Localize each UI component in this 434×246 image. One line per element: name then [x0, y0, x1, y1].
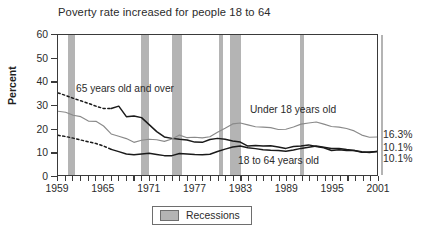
x-tick-mark — [225, 176, 226, 181]
x-tick-label: 1959 — [45, 183, 68, 194]
x-tick-mark — [57, 176, 58, 181]
x-tick-mark — [172, 176, 173, 181]
y-tick-label: 0 — [26, 171, 48, 182]
recession-swatch-icon — [160, 210, 179, 221]
y-axis-title: Percent — [6, 66, 18, 105]
x-tick-mark — [218, 176, 219, 181]
x-tick-mark — [111, 176, 112, 181]
x-tick-mark — [149, 176, 150, 181]
x-tick-mark — [179, 176, 180, 181]
x-tick-mark — [332, 176, 333, 181]
x-tick-mark — [363, 176, 364, 181]
x-tick-mark — [317, 176, 318, 181]
x-tick-mark — [164, 176, 165, 181]
annotation-65-and-over: 65 years old and over — [76, 83, 174, 94]
x-tick-mark — [133, 176, 134, 181]
x-tick-mark — [302, 176, 303, 181]
x-tick-mark — [88, 176, 89, 181]
x-tick-mark — [202, 176, 203, 181]
series-line — [58, 93, 111, 109]
x-tick-mark — [340, 176, 341, 181]
annotation-18-to-64: 18 to 64 years old — [238, 155, 319, 166]
x-tick-mark — [279, 176, 280, 181]
x-tick-label: 1965 — [91, 183, 114, 194]
chart-title: Poverty rate increased for people 18 to … — [58, 6, 271, 18]
x-tick-mark — [240, 176, 241, 181]
legend: Recessions — [152, 206, 252, 225]
x-tick-label: 1995 — [321, 183, 344, 194]
y-tick-label: 60 — [26, 29, 48, 40]
x-tick-mark — [103, 176, 104, 181]
annotation-under-18: Under 18 years old — [250, 104, 336, 115]
x-tick-mark — [347, 176, 348, 181]
x-tick-mark — [233, 176, 234, 181]
x-tick-mark — [248, 176, 249, 181]
x-tick-mark — [156, 176, 157, 181]
x-tick-mark — [126, 176, 127, 181]
x-tick-mark — [95, 176, 96, 181]
x-tick-mark — [309, 176, 310, 181]
x-tick-mark — [141, 176, 142, 181]
y-tick-label: 20 — [26, 123, 48, 134]
legend-label: Recessions — [186, 210, 240, 221]
end-value-label: 10.1% — [383, 153, 412, 164]
x-tick-mark — [118, 176, 119, 181]
end-value-label: 10.1% — [383, 142, 412, 153]
y-tick-label: 50 — [26, 52, 48, 63]
poverty-rate-chart: Poverty rate increased for people 18 to … — [0, 0, 434, 246]
x-tick-mark — [195, 176, 196, 181]
x-tick-mark — [263, 176, 264, 181]
y-tick-label: 10 — [26, 147, 48, 158]
x-tick-mark — [256, 176, 257, 181]
x-tick-mark — [294, 176, 295, 181]
x-tick-label: 1983 — [229, 183, 252, 194]
series-line — [111, 106, 377, 152]
x-tick-mark — [286, 176, 287, 181]
x-tick-label: 1989 — [275, 183, 298, 194]
x-tick-mark — [271, 176, 272, 181]
x-tick-label: 2001 — [366, 183, 389, 194]
x-tick-mark — [210, 176, 211, 181]
y-tick-label: 40 — [26, 76, 48, 87]
x-tick-mark — [72, 176, 73, 181]
x-tick-label: 1971 — [137, 183, 160, 194]
x-tick-mark — [325, 176, 326, 181]
series-line — [58, 135, 111, 149]
x-tick-mark — [355, 176, 356, 181]
y-tick-label: 30 — [26, 100, 48, 111]
x-tick-label: 1977 — [183, 183, 206, 194]
x-tick-mark — [370, 176, 371, 181]
x-tick-mark — [80, 176, 81, 181]
x-tick-mark — [65, 176, 66, 181]
end-value-label: 16.3% — [383, 129, 412, 140]
x-tick-mark — [378, 176, 379, 181]
x-tick-mark — [187, 176, 188, 181]
